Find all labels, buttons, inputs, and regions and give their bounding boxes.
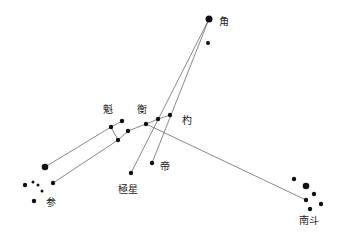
label-jiao: 角	[219, 16, 229, 27]
big-dipper-outline	[111, 115, 170, 140]
star-dipper-5	[144, 122, 148, 126]
label-nandou: 南斗	[299, 214, 319, 226]
star-map: 角 魁 衡 杓 帝 極星 参 南斗	[0, 0, 345, 242]
connection-lines	[45, 19, 306, 200]
line-jiao-to-jixing	[131, 19, 209, 173]
star-dipper-7	[168, 113, 172, 117]
star-nandou-6	[308, 207, 312, 211]
star-nandou-1	[292, 177, 296, 181]
star-nandou-2	[303, 183, 310, 190]
label-kui: 魁	[103, 103, 113, 115]
star-shen-6	[41, 190, 44, 193]
stars-jixing	[129, 171, 133, 175]
line-kui-to-shen	[45, 127, 111, 167]
stars-di	[150, 161, 154, 165]
line-jiao-to-di	[152, 19, 209, 163]
stars-nandou	[292, 177, 323, 211]
star-shen-main	[42, 164, 49, 171]
star-dipper-6	[156, 117, 160, 121]
label-jixing: 極星	[118, 183, 138, 195]
star-jiao-secondary	[206, 41, 210, 45]
star-dipper-1	[120, 119, 124, 123]
star-nandou-3	[312, 192, 316, 196]
label-heng: 衡	[137, 104, 147, 115]
star-shen-7	[32, 199, 36, 203]
star-nandou-4	[304, 198, 308, 202]
star-dipper-2	[109, 125, 113, 129]
stars-jiao	[206, 16, 213, 46]
star-dipper-4	[126, 129, 130, 133]
star-shen-2	[51, 181, 55, 185]
star-shen-3	[23, 183, 27, 187]
star-shen-5	[37, 184, 40, 187]
labels: 角 魁 衡 杓 帝 極星 参 南斗	[46, 16, 319, 226]
star-jiao-main	[206, 16, 213, 23]
star-di	[150, 161, 154, 165]
star-dipper-3	[116, 138, 120, 142]
line-heng-to-nandou	[146, 124, 306, 200]
label-di: 帝	[160, 160, 170, 172]
star-shen-4	[32, 181, 35, 184]
label-shen: 参	[46, 196, 56, 208]
line-kui-to-shen-lower	[53, 140, 118, 183]
label-shao: 杓	[182, 114, 192, 126]
star-jixing	[129, 171, 133, 175]
star-nandou-5	[319, 202, 323, 206]
